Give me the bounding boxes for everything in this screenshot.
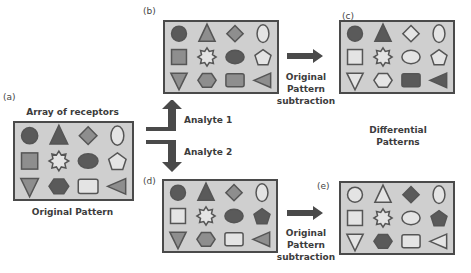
triangle-left-receptor-icon: [253, 232, 270, 246]
star-receptor-icon: [198, 48, 216, 66]
differential-patterns-label: Differential Patterns: [358, 124, 438, 148]
analyte2-label: Analyte 2: [184, 146, 232, 158]
pentagon-receptor-icon: [109, 153, 126, 170]
pentagon-receptor-icon: [431, 50, 447, 65]
rounded-rect-receptor-icon: [402, 74, 420, 87]
triangle-receptor-icon: [199, 24, 215, 41]
panel-b-label: (b): [143, 6, 156, 16]
analyte1-arrow-icon: [146, 100, 186, 132]
rounded-rect-receptor-icon: [402, 235, 420, 248]
panel-e-differential-array: [339, 181, 455, 255]
diamond-receptor-icon: [403, 187, 419, 203]
panel-a-original-array: [13, 121, 134, 201]
hexagon-receptor-icon: [49, 179, 69, 194]
analyte1-label: Analyte 1: [184, 114, 232, 126]
oval-receptor-icon: [225, 209, 243, 222]
array-title-text: Array of receptors: [10, 106, 135, 118]
triangle-left-receptor-icon: [108, 179, 126, 195]
triangle-down-receptor-icon: [170, 232, 186, 249]
triangle-receptor-icon: [50, 125, 68, 144]
panel-c-differential-array: [339, 20, 455, 94]
diamond-receptor-icon: [403, 26, 419, 42]
analyte2-arrow-icon: [146, 140, 186, 174]
subtraction-arrow-top-icon: [287, 49, 323, 63]
square-receptor-icon: [171, 209, 186, 224]
subtraction-bottom-line1: Original: [276, 227, 336, 239]
diamond-receptor-icon: [226, 185, 242, 201]
square-receptor-icon: [348, 211, 363, 226]
subtraction-top-line1: Original: [276, 71, 336, 83]
panel-b-analyte1-array: [163, 20, 279, 94]
triangle-left-receptor-icon: [430, 73, 447, 87]
triangle-down-receptor-icon: [171, 73, 187, 90]
triangle-down-receptor-icon: [347, 234, 363, 251]
circle-receptor-icon: [348, 26, 363, 41]
subtraction-label-bottom: Original Pattern subtraction: [276, 227, 336, 263]
differential-line2: Patterns: [358, 136, 438, 148]
ellipse-receptor-icon: [433, 25, 445, 43]
shape-grid-e: [341, 183, 453, 253]
oval-receptor-icon: [402, 211, 420, 224]
hexagon-receptor-icon: [374, 235, 392, 249]
ellipse-receptor-icon: [257, 25, 269, 43]
rounded-rect-receptor-icon: [78, 179, 98, 193]
shape-grid-b: [165, 22, 277, 92]
circle-receptor-icon: [22, 128, 38, 144]
ellipse-receptor-icon: [111, 126, 124, 145]
triangle-left-receptor-icon: [254, 73, 271, 87]
circle-receptor-icon: [348, 187, 363, 202]
square-receptor-icon: [22, 153, 38, 169]
shape-grid-a: [15, 123, 132, 199]
panel-d-label: (d): [143, 176, 156, 186]
differential-line1: Differential: [358, 124, 438, 136]
triangle-down-receptor-icon: [347, 73, 363, 90]
square-receptor-icon: [172, 50, 187, 65]
subtraction-bottom-line2: Pattern: [276, 239, 336, 251]
shape-grid-d: [164, 181, 276, 251]
triangle-down-receptor-icon: [21, 179, 39, 197]
star-receptor-icon: [374, 209, 392, 227]
panel-d-analyte2-array: [162, 179, 278, 253]
star-receptor-icon: [374, 48, 392, 66]
square-receptor-icon: [348, 50, 363, 65]
triangle-receptor-icon: [375, 24, 391, 41]
oval-receptor-icon: [78, 154, 98, 169]
subtraction-bottom-line3: subtraction: [276, 251, 336, 263]
circle-receptor-icon: [171, 185, 186, 200]
rounded-rect-receptor-icon: [225, 233, 243, 246]
diamond-receptor-icon: [79, 127, 97, 145]
oval-receptor-icon: [226, 50, 244, 63]
ellipse-receptor-icon: [433, 186, 445, 204]
triangle-receptor-icon: [375, 185, 391, 202]
rounded-rect-receptor-icon: [226, 74, 244, 87]
subtraction-label-top: Original Pattern subtraction: [276, 71, 336, 107]
triangle-receptor-icon: [198, 183, 214, 200]
pentagon-receptor-icon: [431, 211, 447, 226]
oval-receptor-icon: [402, 50, 420, 63]
triangle-left-receptor-icon: [430, 234, 447, 248]
diamond-receptor-icon: [227, 26, 243, 42]
shape-grid-c: [341, 22, 453, 92]
hexagon-receptor-icon: [197, 233, 215, 247]
panel-a-label: (a): [3, 92, 16, 102]
star-receptor-icon: [197, 207, 215, 225]
pentagon-receptor-icon: [255, 50, 271, 65]
star-receptor-icon: [49, 151, 69, 171]
subtraction-top-line3: subtraction: [276, 95, 336, 107]
original-pattern-label: Original Pattern: [10, 206, 135, 218]
hexagon-receptor-icon: [198, 74, 216, 88]
subtraction-arrow-bottom-icon: [287, 206, 323, 220]
pentagon-receptor-icon: [254, 209, 270, 224]
hexagon-receptor-icon: [374, 74, 392, 88]
subtraction-top-line2: Pattern: [276, 83, 336, 95]
ellipse-receptor-icon: [256, 184, 268, 202]
circle-receptor-icon: [172, 26, 187, 41]
panel-e-label: (e): [317, 181, 330, 191]
